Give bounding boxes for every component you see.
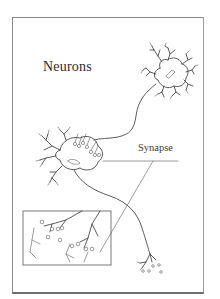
upper-neuron (94, 43, 198, 140)
figure-title: Neurons (43, 59, 92, 75)
neuron-diagram: Neurons Synapse (0, 0, 220, 299)
synapse-leader-lines (100, 161, 178, 252)
synapse-inset (23, 211, 111, 265)
neuron-illustration (0, 0, 220, 299)
synapse-label: Synapse (138, 142, 173, 153)
